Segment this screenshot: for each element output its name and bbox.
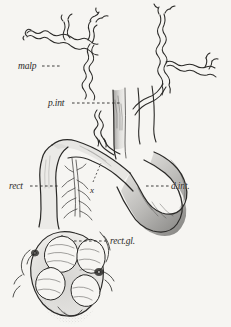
figure-illustration	[0, 0, 231, 327]
label-p-int: p.int	[48, 99, 64, 109]
label-rect-gl: rect.gl.	[110, 237, 135, 247]
label-malp: malp	[18, 62, 36, 72]
label-x: x	[90, 186, 94, 195]
anatomical-figure: malp p.int rect d.int. rect.gl. x	[0, 0, 231, 327]
label-rect: rect	[9, 182, 23, 192]
label-d-int: d.int.	[171, 182, 189, 192]
